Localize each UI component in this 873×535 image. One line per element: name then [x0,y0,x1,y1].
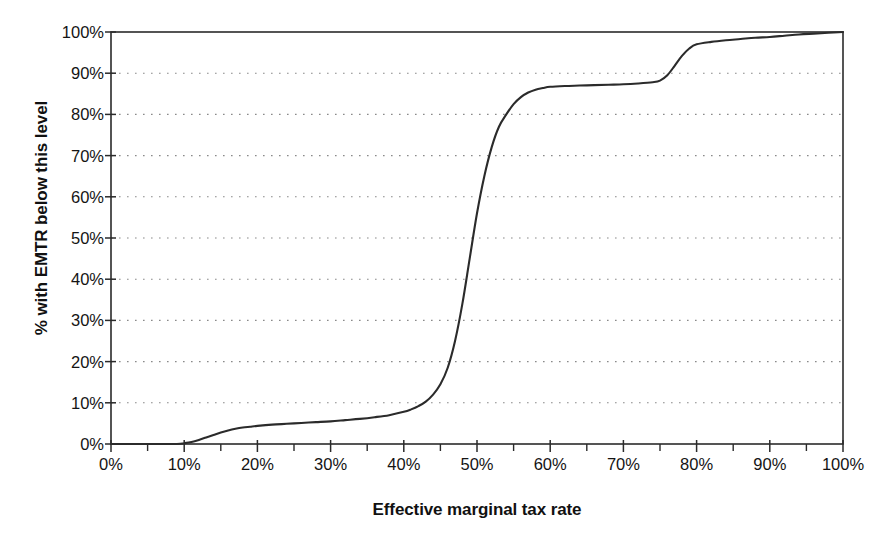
data-series-line [111,32,843,444]
plot-area [0,0,873,535]
chart-figure: % with EMTR below this level Effective m… [0,0,873,535]
x-axis-tick-marks [111,440,843,452]
plot-border [111,32,843,444]
gridlines [111,73,843,403]
